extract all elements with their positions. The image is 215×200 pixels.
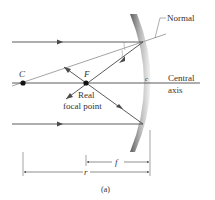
central-axis-label-line2: axis xyxy=(168,85,183,95)
focal-label: F xyxy=(83,69,90,79)
arrow-icon xyxy=(57,122,63,127)
center-of-curvature-point xyxy=(20,80,25,85)
reflected-ray-bottom xyxy=(64,67,143,124)
arrow-icon xyxy=(57,40,63,45)
radius-label: r xyxy=(84,167,88,177)
arrow-icon xyxy=(64,67,71,73)
incidence-angle-arc xyxy=(124,42,125,50)
central-axis-label-line1: Central xyxy=(168,73,195,83)
focal-length-label: f xyxy=(115,157,119,167)
focal-point xyxy=(83,80,88,85)
real-focal-label-line2: focal point xyxy=(63,101,102,111)
concave-mirror-diagram: Normal C F c Central axis Real focal poi… xyxy=(0,0,215,200)
normal-label: Normal xyxy=(167,13,195,23)
real-focal-label-line1: Real xyxy=(78,90,95,100)
center-label: C xyxy=(19,69,26,79)
arrow-icon xyxy=(66,93,73,99)
reflection-angle-arc xyxy=(122,50,123,57)
figure-caption: (a) xyxy=(101,185,110,194)
